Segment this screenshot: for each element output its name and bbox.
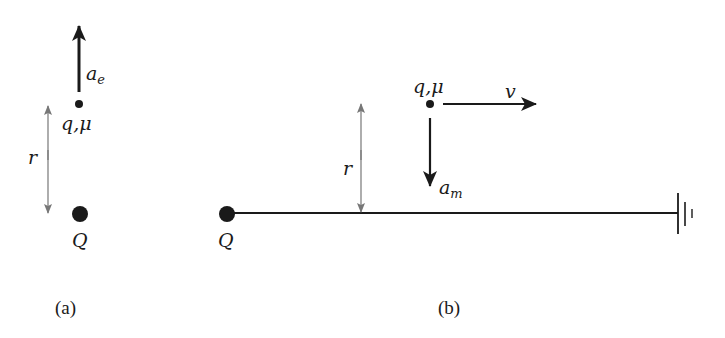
test-charge-label: q,μ bbox=[413, 77, 444, 96]
panel-a-caption: (a) bbox=[55, 298, 76, 317]
figure: ae q,μ r Q (a) q,μ v am r Q (b) bbox=[0, 0, 725, 338]
velocity-label: v bbox=[505, 82, 516, 101]
acceleration-e-label: ae bbox=[86, 64, 105, 86]
diagram-graphics bbox=[0, 0, 725, 338]
acceleration-m-label: am bbox=[439, 178, 463, 200]
ground-icon bbox=[678, 193, 692, 234]
distance-r-label: r bbox=[343, 159, 352, 178]
panel-b-caption: (b) bbox=[438, 298, 460, 317]
test-charge-dot bbox=[75, 100, 83, 108]
panel-b bbox=[219, 100, 692, 234]
source-charge-dot bbox=[219, 206, 235, 222]
test-charge-label: q,μ bbox=[61, 114, 92, 133]
source-charge-label: Q bbox=[72, 231, 88, 250]
source-charge-dot bbox=[72, 206, 88, 222]
distance-r-label: r bbox=[28, 148, 37, 167]
source-charge-label: Q bbox=[218, 231, 234, 250]
test-charge-dot bbox=[426, 100, 434, 108]
